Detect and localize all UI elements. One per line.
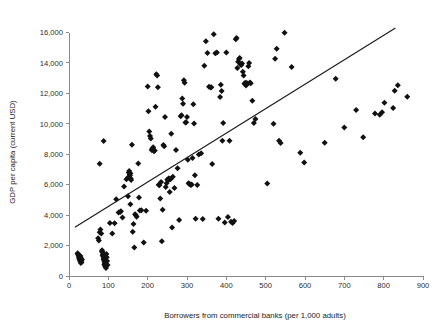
chart-canvas: 02,0004,0006,0008,00010,00012,00014,0001… (0, 0, 441, 332)
data-point (297, 150, 303, 156)
data-point (176, 217, 182, 223)
data-point (97, 161, 103, 167)
data-point (204, 50, 210, 56)
trendline (75, 28, 396, 227)
data-point (173, 147, 179, 153)
y-axis-title: GDP per capita (current USD) (8, 100, 17, 204)
data-point (201, 63, 207, 69)
data-point (168, 131, 174, 137)
x-tick-label: 800 (377, 281, 390, 290)
x-tick-label: 700 (338, 281, 351, 290)
data-point (322, 140, 328, 146)
y-tick-label: 16,000 (40, 28, 63, 37)
data-point (219, 88, 225, 94)
x-tick-label: 600 (299, 281, 312, 290)
data-point (333, 76, 339, 82)
data-point (301, 159, 307, 165)
data-point (218, 82, 224, 88)
x-tick-label: 400 (220, 281, 233, 290)
data-point (101, 138, 107, 144)
data-point (160, 207, 166, 213)
data-point (121, 184, 127, 190)
y-tick-label: 4,000 (44, 211, 63, 220)
data-point (157, 195, 163, 201)
data-point (360, 134, 366, 140)
data-point (222, 219, 228, 225)
data-point (193, 216, 199, 222)
data-point (226, 138, 232, 144)
x-tick-label: 100 (102, 281, 115, 290)
data-point (159, 238, 165, 244)
data-point (191, 121, 197, 127)
data-point (183, 119, 189, 125)
data-point (109, 230, 115, 236)
data-point (341, 124, 347, 130)
data-point (180, 101, 186, 107)
data-point (395, 82, 401, 88)
data-point (220, 120, 226, 126)
y-tick-label: 0 (59, 272, 63, 281)
data-point (175, 165, 181, 171)
scatter-chart: 02,0004,0006,0008,00010,00012,00014,0001… (0, 0, 441, 332)
data-point (184, 114, 190, 120)
data-point (127, 201, 133, 207)
data-point (217, 94, 223, 100)
data-point (141, 240, 147, 246)
data-point (219, 138, 225, 144)
data-point (135, 160, 141, 166)
data-point (155, 84, 161, 90)
data-point (200, 216, 206, 222)
data-point (271, 121, 277, 127)
data-point (119, 215, 125, 221)
data-point (209, 161, 215, 167)
data-point (131, 221, 137, 227)
data-point (192, 172, 198, 178)
y-tick-label: 10,000 (40, 120, 63, 129)
data-point (131, 244, 137, 250)
data-point (289, 64, 295, 70)
data-point (153, 104, 159, 110)
data-point (404, 94, 410, 100)
data-point (145, 108, 151, 114)
data-point (143, 208, 149, 214)
data-point (194, 182, 200, 188)
data-point (167, 189, 173, 195)
y-tick-label: 12,000 (40, 89, 63, 98)
data-point (162, 114, 168, 120)
data-point (179, 96, 185, 102)
data-point (223, 50, 229, 56)
data-point (353, 107, 359, 113)
x-tick-label: 900 (417, 281, 430, 290)
y-tick-label: 8,000 (44, 150, 63, 159)
data-point (225, 214, 231, 220)
data-point (129, 142, 135, 148)
y-axis: 02,0004,0006,0008,00010,00012,00014,0001… (40, 28, 69, 281)
data-point (274, 46, 280, 52)
data-point (372, 110, 378, 116)
y-tick-label: 14,000 (40, 59, 63, 68)
data-point (136, 194, 142, 200)
y-tick-label: 6,000 (44, 180, 63, 189)
x-axis: 0100200300400500600700800900 (67, 276, 429, 290)
data-point (249, 98, 255, 104)
data-point (130, 229, 136, 235)
x-tick-label: 0 (67, 281, 71, 290)
data-point (272, 56, 278, 62)
data-point (203, 38, 209, 44)
data-point (146, 128, 152, 134)
data-point (392, 88, 398, 94)
data-points (75, 30, 411, 271)
data-point (169, 225, 175, 231)
y-tick-label: 2,000 (44, 241, 63, 250)
data-point (190, 101, 196, 107)
data-point (145, 84, 151, 90)
data-point (171, 185, 177, 191)
data-point (390, 105, 396, 111)
data-point (211, 31, 217, 37)
trend-line (75, 28, 396, 227)
data-point (282, 30, 288, 36)
data-point (264, 180, 270, 186)
data-point (112, 220, 118, 226)
x-tick-label: 200 (141, 281, 154, 290)
x-tick-label: 300 (181, 281, 194, 290)
